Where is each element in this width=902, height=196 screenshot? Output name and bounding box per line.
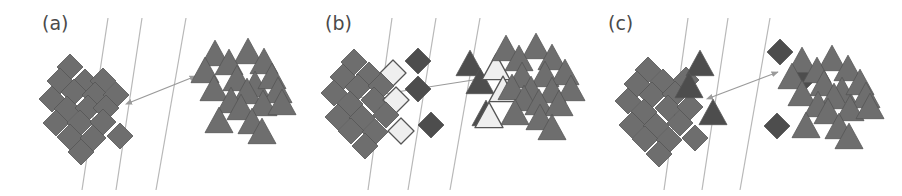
panel-a: (a) — [0, 0, 300, 196]
figure-root: (a)(b)(c) — [0, 0, 902, 196]
decision-boundary — [408, 18, 436, 190]
margin-width-arrow — [131, 76, 196, 102]
class-1-diamond-points — [321, 48, 444, 159]
class-2-triangle-points — [191, 38, 296, 144]
panel-b-label: (b) — [325, 14, 352, 33]
triangle-point-dark — [686, 50, 714, 76]
diamond-point-dark — [764, 113, 790, 139]
margin-line-right — [156, 18, 186, 190]
panel-a-label: (a) — [42, 14, 68, 33]
panel-c: (c) — [590, 0, 902, 196]
class-2-triangle-points — [456, 33, 585, 140]
panel-c-canvas — [590, 0, 902, 196]
panel-c-label: (c) — [608, 14, 633, 33]
margin-width-arrow — [712, 72, 778, 97]
margin-line-right — [740, 18, 770, 190]
panel-b: (b) — [290, 0, 590, 196]
diamond-point-dark — [767, 39, 793, 65]
triangle-point-dark — [699, 99, 727, 125]
class-1-diamond-points — [39, 54, 133, 165]
margin-line-right — [450, 18, 480, 190]
diamond-point-dark — [405, 76, 431, 102]
diamond-point-dark — [418, 112, 444, 138]
